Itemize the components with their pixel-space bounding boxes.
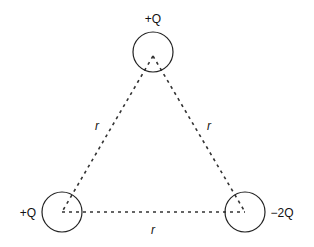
charge-bottom-left-label: +Q: [20, 206, 36, 220]
side-right-label: r: [207, 119, 212, 133]
charge-top-circle: [133, 32, 173, 72]
side-left: [62, 56, 153, 212]
side-bottom-label: r: [151, 223, 156, 237]
side-right: [153, 56, 245, 212]
charge-top-label: +Q: [145, 12, 161, 26]
side-left-label: r: [95, 119, 100, 133]
charge-bottom-right-label: −2Q: [270, 206, 293, 220]
triangle-sides: [62, 56, 245, 212]
charge-triangle-diagram: +Q +Q −2Q r r r: [0, 0, 314, 247]
